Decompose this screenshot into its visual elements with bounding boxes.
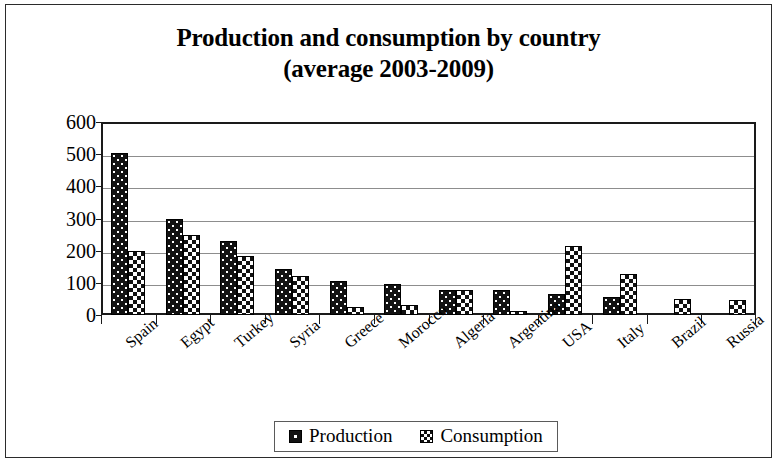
legend-label-consumption: Consumption [440,425,542,447]
bar-production [384,284,401,315]
bar-consumption [620,274,637,315]
y-axis-tick-label: 600 [36,112,96,132]
legend-entry-consumption: Consumption [420,425,542,447]
bar-group [111,122,145,315]
bar-group [712,122,746,315]
bar-production [493,290,510,315]
x-axis-category-labels: SpainEgyptTurkeySyriaGreeceMoroccoAlgeri… [101,324,777,396]
x-axis-label-italy: Italy [614,319,647,351]
chart-page: Production and consumption by country (a… [0,0,777,462]
bar-consumption [456,290,473,315]
chart-legend: Production Consumption [274,421,558,452]
y-axis-tick-label: 500 [36,144,96,164]
legend-label-production: Production [309,425,392,447]
bar-consumption [401,305,418,315]
bar-group [166,122,200,315]
bar-group [330,122,364,315]
bar-group [384,122,418,315]
bar-production [603,297,620,315]
bar-consumption [292,276,309,315]
bar-group [275,122,309,315]
x-axis-tick-mark [101,315,102,324]
production-swatch-icon [289,430,302,443]
y-axis-tick-label: 300 [36,209,96,229]
bar-consumption [237,256,254,316]
bar-production [166,219,183,316]
bar-consumption [565,246,582,315]
legend-entry-production: Production [289,425,392,447]
x-axis-tick-mark [319,315,320,324]
bar-consumption [183,235,200,315]
y-axis-tick-label: 200 [36,241,96,261]
bar-production [111,153,128,315]
bars-layer [101,122,756,315]
y-axis-tick-label: 0 [36,305,96,325]
bar-group [548,122,582,315]
bar-consumption [347,307,364,315]
bar-consumption [128,251,145,315]
bar-group [603,122,637,315]
chart-title-line-2: (average 2003-2009) [0,53,777,84]
bar-group [493,122,527,315]
chart-title-line-1: Production and consumption by country [176,24,600,51]
bar-production [330,281,347,315]
bar-group [220,122,254,315]
y-axis-tick-label: 400 [36,176,96,196]
bar-group [439,122,473,315]
x-axis-tick-mark [592,315,593,324]
bar-production [220,241,237,315]
bar-production [275,269,292,315]
x-axis-tick-mark [647,315,648,324]
bar-group [657,122,691,315]
chart-title: Production and consumption by country (a… [0,22,777,84]
bar-consumption [729,300,746,315]
consumption-swatch-icon [420,430,433,443]
bar-consumption [674,299,691,315]
y-axis-tick-labels: 6005004003002001000 [30,122,96,315]
y-axis-tick-label: 100 [36,273,96,293]
